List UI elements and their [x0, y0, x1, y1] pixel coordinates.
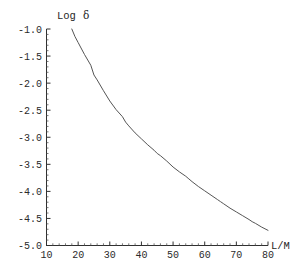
plot-canvas: -1.0-1.5-2.0-2.5-3.0-3.5-4.0-4.5-5.0 102…: [0, 0, 294, 277]
y-tick-label: -3.5: [18, 160, 42, 171]
x-tick-label: 20: [72, 250, 84, 261]
x-tick-label: 30: [104, 250, 116, 261]
x-tick-label: 50: [167, 250, 179, 261]
y-tick-label: -1.0: [18, 25, 42, 36]
y-tick-label: -5.0: [18, 241, 42, 252]
x-tick-label: 60: [199, 250, 211, 261]
y-tick-label: -4.0: [18, 187, 42, 198]
x-tick-label: 40: [135, 250, 147, 261]
y-axis-label-text: Log: [57, 10, 76, 22]
x-tick-label: 10: [40, 250, 52, 261]
y-tick-label: -4.5: [18, 214, 42, 225]
y-tick-label: -2.5: [18, 106, 42, 117]
log-delta-vs-l-over-m-chart: -1.0-1.5-2.0-2.5-3.0-3.5-4.0-4.5-5.0 102…: [0, 0, 294, 277]
y-axis-label-symbol: δ: [83, 9, 89, 21]
y-axis-tick-labels: -1.0-1.5-2.0-2.5-3.0-3.5-4.0-4.5-5.0: [18, 25, 42, 253]
x-tick-label: 70: [230, 250, 242, 261]
y-tick-label: -2.0: [18, 79, 42, 90]
y-tick-label: -3.0: [18, 133, 42, 144]
x-axis-label: L/M: [271, 240, 290, 252]
y-tick-label: -1.5: [18, 52, 42, 63]
chart-background: [0, 0, 294, 277]
